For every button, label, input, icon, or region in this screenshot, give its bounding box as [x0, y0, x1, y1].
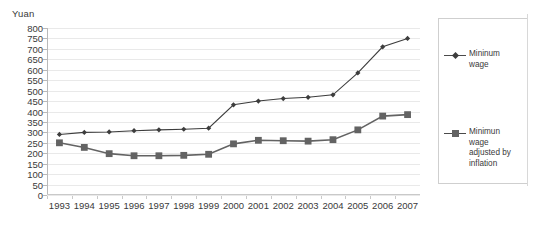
y-tickmark — [43, 185, 47, 186]
data-point-square — [255, 137, 262, 144]
x-tick-label: 1995 — [99, 200, 120, 211]
x-tick-label: 2000 — [223, 200, 244, 211]
y-tickmark — [43, 153, 47, 154]
y-tick-label: 50 — [32, 179, 43, 190]
data-point-diamond — [181, 127, 186, 132]
x-tick-label: 1996 — [123, 200, 144, 211]
x-tick-label: 1997 — [148, 200, 169, 211]
data-point-square — [330, 136, 337, 143]
y-axis-unit-label: Yuan — [12, 8, 34, 19]
y-tickmark — [43, 59, 47, 60]
data-point-square — [180, 152, 187, 159]
y-tick-label: 750 — [27, 33, 43, 44]
y-tick-label: 200 — [27, 148, 43, 159]
data-point-square — [106, 150, 113, 157]
series-line-1 — [59, 38, 407, 134]
x-tick-label: 1999 — [198, 200, 219, 211]
x-axis-tick-labels: 1993199419951996199719981999200020012002… — [47, 200, 420, 216]
x-tick-label: 2004 — [322, 200, 343, 211]
y-tick-label: 300 — [27, 127, 43, 138]
chart-legend: Mininumwage Minimunwageadjusted byinflat… — [438, 18, 528, 184]
y-tickmark — [43, 164, 47, 165]
data-point-square — [56, 139, 63, 146]
data-point-square — [354, 126, 361, 133]
data-point-square — [280, 137, 287, 144]
y-tickmark — [43, 132, 47, 133]
data-point-diamond — [156, 127, 161, 132]
y-tickmark — [43, 91, 47, 92]
x-tick-label: 2005 — [347, 200, 368, 211]
y-tick-label: 550 — [27, 75, 43, 86]
y-tickmark — [43, 101, 47, 102]
y-tick-label: 650 — [27, 54, 43, 65]
y-tickmark — [43, 38, 47, 39]
x-tick-label: 1998 — [173, 200, 194, 211]
x-tick-label: 1993 — [49, 200, 70, 211]
x-tick-label: 2001 — [248, 200, 269, 211]
y-axis-tick-labels: 0501001502002503003504004505005506006507… — [10, 28, 43, 195]
minimum-wage-line-chart: Yuan 05010015020025030035040045050055060… — [0, 0, 534, 233]
data-point-square — [404, 111, 411, 118]
y-tickmark — [43, 122, 47, 123]
y-tick-label: 450 — [27, 96, 43, 107]
series-line-2 — [59, 115, 407, 156]
plot-area — [47, 28, 420, 195]
data-point-square — [305, 138, 312, 145]
y-tickmark — [43, 70, 47, 71]
data-point-square — [81, 144, 88, 151]
square-marker-icon — [444, 128, 466, 139]
legend-item-minimum-wage: Mininumwage — [444, 49, 524, 70]
y-tick-label: 250 — [27, 137, 43, 148]
y-gridline — [47, 195, 420, 196]
data-point-diamond — [306, 95, 311, 100]
y-tick-label: 350 — [27, 116, 43, 127]
data-point-square — [379, 113, 386, 120]
data-point-square — [205, 151, 212, 158]
data-point-diamond — [107, 129, 112, 134]
y-tick-label: 150 — [27, 158, 43, 169]
y-tick-label: 600 — [27, 64, 43, 75]
diamond-marker-icon — [444, 50, 466, 61]
legend-item-minimum-wage-adjusted: Minimunwageadjusted byinflation — [444, 127, 524, 169]
y-tickmark — [43, 49, 47, 50]
x-tick-label: 2007 — [397, 200, 418, 211]
data-point-diamond — [405, 36, 410, 41]
y-tickmark — [43, 28, 47, 29]
data-point-diamond — [82, 130, 87, 135]
y-tickmark — [43, 143, 47, 144]
x-tick-label: 2003 — [298, 200, 319, 211]
series-lines — [47, 28, 420, 195]
y-tick-label: 700 — [27, 43, 43, 54]
data-point-diamond — [57, 132, 62, 137]
y-tick-label: 500 — [27, 85, 43, 96]
data-point-diamond — [131, 128, 136, 133]
x-tick-label: 2002 — [273, 200, 294, 211]
y-tick-label: 800 — [27, 23, 43, 34]
y-tickmark — [43, 80, 47, 81]
right-divider — [527, 14, 528, 186]
data-point-square — [230, 140, 237, 147]
x-tick-label: 1994 — [74, 200, 95, 211]
y-tick-label: 100 — [27, 169, 43, 180]
y-tick-label: 400 — [27, 106, 43, 117]
x-tick-label: 2006 — [372, 200, 393, 211]
y-tickmark — [43, 195, 47, 196]
y-tickmark — [43, 112, 47, 113]
data-point-diamond — [281, 96, 286, 101]
data-point-diamond — [256, 98, 261, 103]
data-point-square — [156, 152, 163, 159]
y-tickmark — [43, 174, 47, 175]
legend-label-minimum-wage: Mininumwage — [469, 49, 500, 70]
legend-label-minimum-wage-adjusted: Minimunwageadjusted byinflation — [469, 127, 511, 169]
data-point-square — [131, 152, 138, 159]
